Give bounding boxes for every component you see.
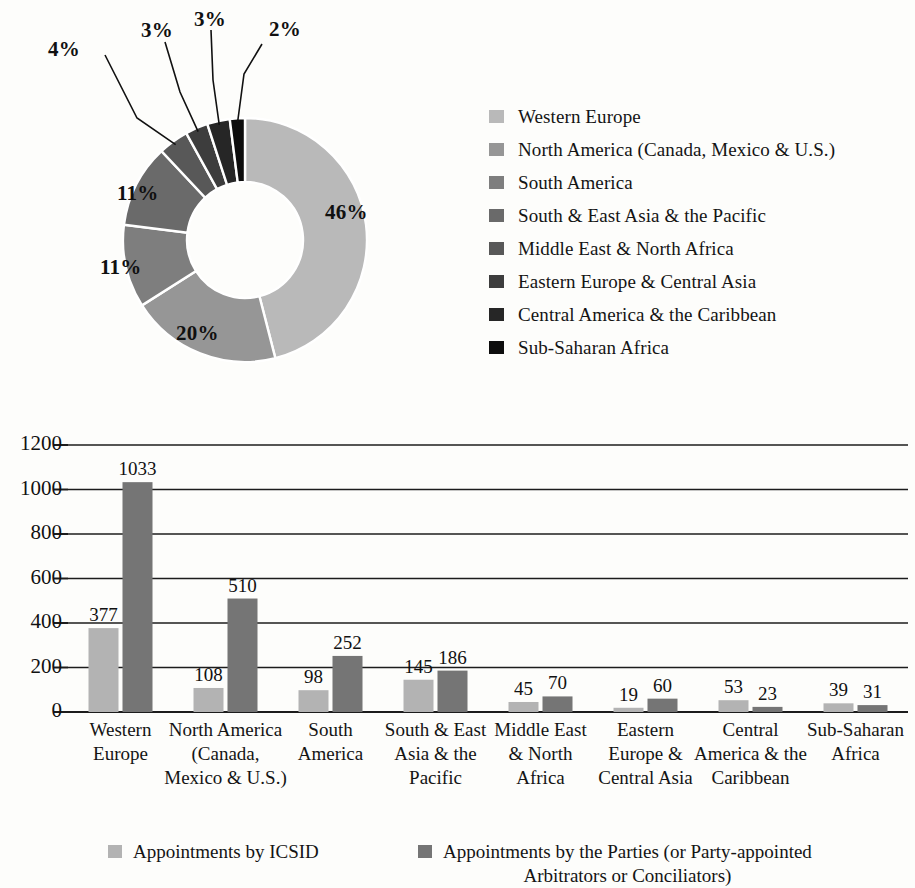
legend-label-icsid: Appointments by ICSID: [133, 840, 319, 864]
pie-label-western-europe: 46%: [325, 200, 368, 225]
category-label-line: Sub-Saharan: [790, 718, 915, 742]
pie-legend-swatch: [489, 176, 504, 189]
bar-value-label: 108: [179, 664, 239, 686]
pie-legend-item[interactable]: South America: [489, 166, 909, 199]
bar: [89, 628, 119, 712]
bar-value-label: 1033: [108, 458, 168, 480]
legend-label-parties-line1: Appointments by the Parties (or Party-ap…: [443, 841, 812, 862]
y-axis-tick-label: 800: [0, 520, 62, 545]
pie-legend-item[interactable]: South & East Asia & the Pacific: [489, 199, 909, 232]
category-label-line: Africa: [790, 742, 915, 766]
pie-leader-line: [105, 55, 176, 145]
pie-label-south-america: 11%: [100, 255, 141, 280]
bar-value-label: 510: [213, 575, 273, 597]
pie-legend-swatch: [489, 308, 504, 321]
legend-item-parties: Appointments by the Parties (or Party-ap…: [418, 840, 812, 888]
category-label-line: Mexico & U.S.): [160, 766, 292, 790]
pie-label-eastern-europe: 3%: [141, 18, 173, 43]
bar-value-label: 70: [528, 672, 588, 694]
donut-slices: [123, 118, 367, 362]
pie-leader-line: [238, 44, 262, 122]
pie-legend-swatch: [489, 110, 504, 123]
legend-label-parties: Appointments by the Parties (or Party-ap…: [443, 840, 812, 888]
category-label-line: Caribbean: [685, 766, 817, 790]
donut-chart: 46% 20% 11% 11% 4% 3% 3% 2%: [0, 0, 480, 410]
bar: [194, 688, 224, 712]
bar-value-label: 23: [738, 683, 798, 705]
bar: [858, 705, 888, 712]
pie-legend-label: Western Europe: [518, 106, 641, 128]
bar: [228, 599, 258, 712]
x-axis-category-label: Sub-SaharanAfrica: [790, 718, 915, 766]
pie-legend-swatch: [489, 242, 504, 255]
bar-value-label: 186: [423, 647, 483, 669]
pie-label-middle-east: 4%: [48, 37, 80, 62]
bar: [824, 703, 854, 712]
bar-chart: 120010008006004002000 377103310851098252…: [0, 430, 915, 730]
bar-value-label: 377: [74, 604, 134, 626]
bar: [299, 690, 329, 712]
legend-swatch-icsid: [108, 845, 122, 858]
bar-value-label: 252: [318, 632, 378, 654]
y-axis-tick-label: 1000: [0, 476, 62, 501]
legend-swatch-parties: [418, 845, 432, 858]
pie-legend-swatch: [489, 275, 504, 288]
bar-chart-legend: Appointments by ICSID Appointments by th…: [0, 818, 915, 876]
pie-legend-swatch: [489, 341, 504, 354]
pie-label-south-east-asia: 11%: [117, 181, 158, 206]
pie-legend-swatch: [489, 143, 504, 156]
pie-legend-label: South & East Asia & the Pacific: [518, 205, 766, 227]
pie-legend-label: Eastern Europe & Central Asia: [518, 271, 756, 293]
pie-legend-swatch: [489, 209, 504, 222]
pie-legend-item[interactable]: Sub-Saharan Africa: [489, 331, 909, 364]
pie-leader-line: [165, 42, 198, 132]
pie-legend-item[interactable]: North America (Canada, Mexico & U.S.): [489, 133, 909, 166]
bar: [753, 707, 783, 712]
y-axis-tick-label: 600: [0, 565, 62, 590]
pie-legend-label: North America (Canada, Mexico & U.S.): [518, 139, 835, 161]
pie-leader-line: [211, 30, 219, 125]
pie-legend: Western EuropeNorth America (Canada, Mex…: [489, 100, 909, 364]
pie-legend-item[interactable]: Western Europe: [489, 100, 909, 133]
x-axis-category-labels: WesternEuropeNorth America(Canada,Mexico…: [0, 716, 915, 808]
y-axis-tick-label: 400: [0, 609, 62, 634]
bar: [123, 482, 153, 712]
bar: [614, 708, 644, 712]
pie-legend-label: Central America & the Caribbean: [518, 304, 776, 326]
pie-legend-label: South America: [518, 172, 633, 194]
legend-label-parties-line2: Arbitrators or Conciliators): [443, 864, 812, 888]
pie-legend-label: Middle East & North Africa: [518, 238, 734, 260]
legend-item-icsid: Appointments by ICSID: [108, 840, 319, 864]
pie-label-central-america: 3%: [194, 7, 226, 32]
y-axis-tick-label: 200: [0, 654, 62, 679]
y-axis-tick-label: 1200: [0, 431, 62, 456]
bar: [509, 702, 539, 712]
pie-legend-label: Sub-Saharan Africa: [518, 337, 669, 359]
bar: [404, 680, 434, 712]
bar-value-label: 31: [843, 681, 903, 703]
pie-legend-item[interactable]: Middle East & North Africa: [489, 232, 909, 265]
pie-label-sub-saharan: 2%: [269, 17, 301, 42]
pie-label-north-america: 20%: [176, 321, 219, 346]
pie-legend-item[interactable]: Central America & the Caribbean: [489, 298, 909, 331]
pie-legend-item[interactable]: Eastern Europe & Central Asia: [489, 265, 909, 298]
bar-value-label: 98: [284, 666, 344, 688]
bar-value-label: 60: [633, 675, 693, 697]
